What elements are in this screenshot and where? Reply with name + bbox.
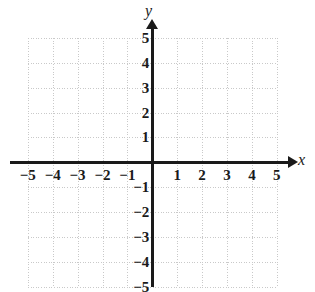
x-tick-label: −3 (70, 168, 86, 183)
y-tick-label: 1 (142, 130, 150, 145)
x-tick-label: 1 (173, 168, 181, 183)
x-axis-arrow-icon (288, 156, 298, 168)
coordinate-plane-figure: x y −5−4−3−2−11234554321−1−2−3−4−5 (0, 0, 315, 292)
y-tick-label: 2 (142, 105, 150, 120)
y-tick-label: −4 (133, 254, 149, 269)
x-tick-label: −4 (45, 168, 61, 183)
y-tick-label: −1 (133, 180, 149, 195)
y-tick-label: −3 (133, 230, 149, 245)
x-tick-label: 2 (198, 168, 206, 183)
y-tick-label: −5 (133, 279, 149, 292)
x-tick-label: −2 (94, 168, 110, 183)
x-tick-label: 3 (223, 168, 231, 183)
y-tick-label: −2 (133, 205, 149, 220)
y-axis-line (151, 28, 154, 287)
x-tick-label: 5 (273, 168, 281, 183)
x-tick-label: 4 (248, 168, 256, 183)
y-tick-label: 5 (142, 30, 150, 45)
y-axis-arrow-icon (146, 19, 158, 29)
x-tick-label: −5 (20, 168, 36, 183)
x-axis-label: x (298, 152, 305, 168)
y-tick-label: 3 (142, 80, 150, 95)
y-tick-label: 4 (142, 55, 150, 70)
y-axis-label: y (145, 3, 152, 19)
